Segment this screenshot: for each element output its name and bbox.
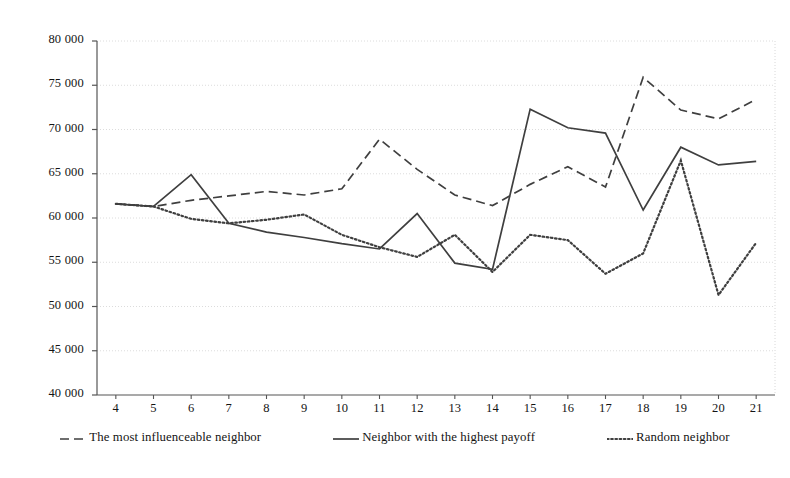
y-axis-tick-label: 70 000 <box>18 121 84 136</box>
legend-swatch-dashed-icon <box>60 431 86 443</box>
x-axis-tick-label: 4 <box>101 401 131 416</box>
y-axis-tick-label: 60 000 <box>18 209 84 224</box>
y-axis-tick-marks <box>92 41 97 395</box>
x-axis-tick-label: 6 <box>176 401 206 416</box>
x-axis-tick-label: 11 <box>365 401 395 416</box>
x-axis-tick-label: 13 <box>440 401 470 416</box>
x-axis-tick-label: 21 <box>741 401 771 416</box>
legend-swatch-solid-icon <box>333 431 359 443</box>
x-axis-tick-label: 15 <box>515 401 545 416</box>
y-axis-tick-label: 55 000 <box>18 253 84 268</box>
x-axis-tick-label: 16 <box>553 401 583 416</box>
legend-swatch-dotted-icon <box>607 431 633 443</box>
y-axis-tick-label: 80 000 <box>18 32 84 47</box>
legend-entry[interactable]: The most influenceable neighbor <box>60 430 261 445</box>
x-axis-tick-label: 5 <box>139 401 169 416</box>
x-axis-tick-label: 9 <box>289 401 319 416</box>
x-axis-tick-label: 14 <box>478 401 508 416</box>
x-axis-tick-label: 8 <box>252 401 282 416</box>
legend-label: Random neighbor <box>636 430 730 445</box>
legend-label: The most influenceable neighbor <box>89 430 261 445</box>
series-line-1 <box>116 77 756 206</box>
y-axis-tick-label: 75 000 <box>18 76 84 91</box>
y-axis-tick-label: 40 000 <box>18 386 84 401</box>
y-axis-tick-label: 50 000 <box>18 298 84 313</box>
line-chart-figure: 40 00045 00050 00055 00060 00065 00070 0… <box>0 0 790 478</box>
x-axis-tick-label: 7 <box>214 401 244 416</box>
x-axis-tick-label: 18 <box>628 401 658 416</box>
gridlines-group <box>97 41 775 351</box>
legend-label: Neighbor with the highest payoff <box>362 430 535 445</box>
legend-entry[interactable]: Neighbor with the highest payoff <box>333 430 535 445</box>
y-axis-tick-label: 65 000 <box>18 165 84 180</box>
series-line-2 <box>116 109 756 269</box>
legend-entry[interactable]: Random neighbor <box>607 430 730 445</box>
x-axis-tick-label: 20 <box>704 401 734 416</box>
x-axis-tick-label: 10 <box>327 401 357 416</box>
y-axis-tick-label: 45 000 <box>18 342 84 357</box>
chart-legend: The most influenceable neighborNeighbor … <box>0 424 790 450</box>
x-axis-tick-label: 17 <box>591 401 621 416</box>
x-axis-tick-label: 19 <box>666 401 696 416</box>
x-axis-tick-label: 12 <box>402 401 432 416</box>
